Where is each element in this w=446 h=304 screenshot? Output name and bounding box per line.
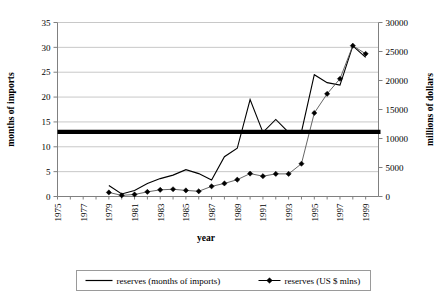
x-tick-label: 1991 (258, 204, 268, 222)
y2-tick-label: 0 (386, 192, 391, 202)
data-point-marker (260, 174, 265, 179)
legend-label-months: reserves (months of imports) (117, 276, 221, 286)
data-point-marker (106, 190, 111, 195)
plot-frame (58, 23, 379, 197)
data-point-marker (196, 189, 201, 194)
data-point-marker (170, 187, 175, 192)
data-point-marker (158, 187, 163, 192)
legend-label-usd: reserves (US $ mlns) (285, 276, 361, 286)
series-line-usd (109, 46, 366, 196)
y-tick-label: 10 (42, 142, 52, 152)
y2-tick-label: 20000 (386, 76, 409, 86)
chart-svg: 05101520253035 0500010000150002000025000… (0, 0, 446, 304)
chart-container: 05101520253035 0500010000150002000025000… (0, 0, 446, 304)
y-tick-label: 20 (42, 92, 52, 102)
y2-tick-label: 30000 (386, 18, 409, 28)
x-tick-label: 1975 (53, 203, 63, 222)
y-tick-label: 30 (42, 43, 52, 53)
data-point-marker (145, 189, 150, 194)
x-tick-label: 1993 (284, 203, 294, 222)
y2-tick-label: 5000 (386, 163, 405, 173)
x-tick-label: 1995 (310, 203, 320, 222)
x-tick-label: 1981 (130, 204, 140, 222)
chart-legend: reserves (months of imports)reserves (US… (77, 271, 371, 291)
y2-tick-label: 10000 (386, 134, 409, 144)
data-series (106, 43, 368, 198)
data-point-marker (209, 184, 214, 189)
x-tick-label: 1977 (79, 203, 89, 222)
x-tick-label: 1983 (156, 203, 166, 222)
data-point-marker (312, 110, 317, 115)
y-tick-label: 5 (46, 167, 51, 177)
y-tick-label: 15 (42, 117, 52, 127)
x-axis-ticks: 1975197719791981198319851987198919911993… (53, 197, 371, 222)
y-axis-title: months of imports (6, 72, 16, 147)
data-point-marker (183, 188, 188, 193)
y2-axis-title: millions of dollars (425, 73, 435, 146)
y-tick-label: 25 (42, 67, 52, 77)
x-tick-label: 1985 (181, 203, 191, 222)
data-point-marker (235, 177, 240, 182)
y2-axis-ticks: 050001000015000200002500030000 (379, 18, 409, 202)
x-tick-label: 1979 (104, 203, 114, 222)
data-point-marker (222, 181, 227, 186)
y-tick-label: 0 (46, 192, 51, 202)
x-tick-label: 1989 (233, 203, 243, 222)
x-tick-label: 1999 (361, 203, 371, 222)
y-tick-label: 35 (42, 18, 52, 28)
y2-tick-label: 25000 (386, 47, 409, 57)
x-axis-title: year (197, 233, 216, 243)
gridlines (58, 23, 379, 197)
x-tick-label: 1997 (335, 203, 345, 222)
x-tick-label: 1987 (207, 203, 217, 222)
y-axis-ticks: 05101520253035 (42, 18, 58, 202)
y2-tick-label: 15000 (386, 105, 409, 115)
